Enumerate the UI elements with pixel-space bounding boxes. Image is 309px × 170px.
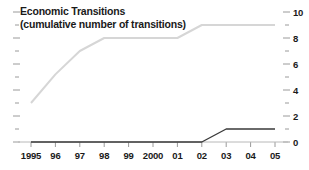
- y-tick-label: 8: [293, 33, 298, 44]
- x-tick-marks: [31, 142, 275, 147]
- x-tick-label: 98: [99, 150, 109, 161]
- data-series-group: [31, 25, 275, 142]
- y-tick-label: 6: [293, 59, 298, 70]
- x-tick-label: 05: [270, 150, 280, 161]
- left-tick-marks: [13, 12, 20, 142]
- y-tick-label: 10: [293, 7, 303, 18]
- x-tick-label: 02: [197, 150, 207, 161]
- chart-container: Economic Transitions (cumulative number …: [0, 0, 309, 170]
- x-tick-label: 01: [172, 150, 182, 161]
- x-tick-label: 2000: [143, 150, 163, 161]
- y-tick-label: 2: [293, 111, 298, 122]
- x-tick-label: 1995: [21, 150, 41, 161]
- plot-area: [0, 0, 309, 170]
- y-tick-label: 0: [293, 137, 298, 148]
- series-line-0: [31, 25, 275, 103]
- x-tick-label: 99: [124, 150, 134, 161]
- y-tick-label: 4: [293, 85, 298, 96]
- series-line-1: [31, 129, 275, 142]
- right-tick-marks: [283, 12, 290, 142]
- x-tick-label: 97: [75, 150, 85, 161]
- x-tick-label: 96: [50, 150, 60, 161]
- x-tick-label: 04: [246, 150, 256, 161]
- x-tick-label: 03: [221, 150, 231, 161]
